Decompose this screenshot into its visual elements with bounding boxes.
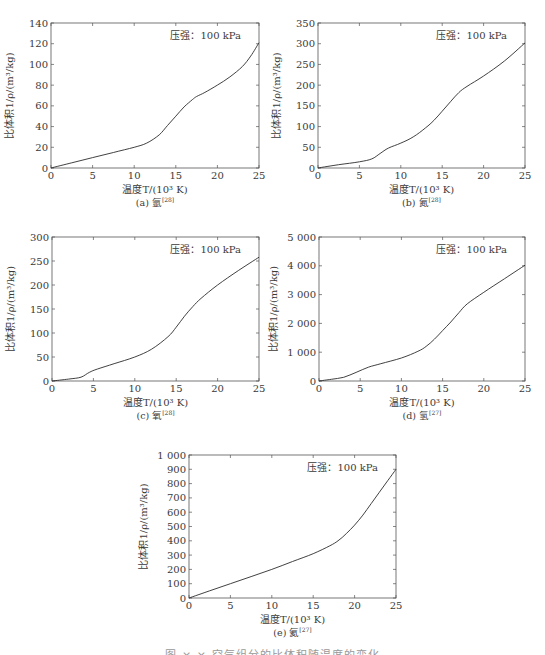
x-tick-label: 0 <box>49 383 55 394</box>
y-axis-label: 比体积1/ρ/(m³/kg) <box>268 266 279 352</box>
y-tick-label: 350 <box>296 18 315 29</box>
data-line <box>51 43 259 168</box>
y-tick-label: 20 <box>35 142 48 153</box>
chart-d: 051015202501 0002 0003 0004 0005 000压强：1… <box>267 227 545 431</box>
y-tick-label: 4 000 <box>287 260 316 271</box>
y-tick-label: 150 <box>296 100 315 111</box>
y-axis-label: 比体积1/ρ/(m³/kg) <box>138 483 149 569</box>
plot-frame <box>189 455 396 598</box>
y-tick-label: 100 <box>30 328 49 339</box>
y-tick-label: 150 <box>30 304 49 315</box>
y-tick-label: 1 000 <box>157 450 186 461</box>
x-tick-label: 5 <box>90 383 96 394</box>
y-tick-label: 300 <box>296 38 315 49</box>
plot-frame <box>318 23 525 168</box>
x-axis-label: 温度T/(10³ K) <box>389 183 454 195</box>
subfigure-caption: (d) 氢[27] <box>403 409 442 421</box>
y-tick-label: 250 <box>296 59 315 70</box>
plot-frame <box>319 237 525 381</box>
y-axis-label: 比体积1/ρ/(m³/kg) <box>4 52 15 138</box>
y-tick-label: 200 <box>167 564 186 575</box>
x-tick-label: 10 <box>395 383 408 394</box>
pressure-annotation: 压强：100 kPa <box>170 30 241 41</box>
y-tick-label: 120 <box>29 38 48 49</box>
chart-e: 051015202501002003004005006007008009001 … <box>137 445 424 648</box>
x-tick-label: 5 <box>227 600 233 611</box>
data-line <box>318 43 525 168</box>
x-tick-label: 15 <box>170 383 183 394</box>
x-tick-label: 0 <box>316 383 322 394</box>
y-axis-label: 比体积1/ρ/(m³/kg) <box>5 266 16 352</box>
chart-b: 0510152025050100150200250300350压强：100 kP… <box>266 13 545 218</box>
x-tick-label: 25 <box>253 170 266 181</box>
data-line <box>319 265 525 381</box>
plot-frame <box>52 237 259 381</box>
y-tick-label: 5 000 <box>287 232 316 243</box>
y-tick-label: 0 <box>310 376 316 387</box>
pressure-annotation: 压强：100 kPa <box>436 244 507 255</box>
y-tick-label: 600 <box>167 507 186 518</box>
y-tick-label: 200 <box>30 280 49 291</box>
chart-a: 0510152025020406080100120140压强：100 kPa比体… <box>0 13 287 218</box>
y-tick-label: 80 <box>35 80 48 91</box>
x-tick-label: 25 <box>519 383 532 394</box>
y-tick-label: 100 <box>167 578 186 589</box>
chart-c: 0510152025050100150200250300压强：100 kPa比体… <box>0 227 287 431</box>
pressure-annotation: 压强：100 kPa <box>436 30 507 41</box>
subfigure-caption: (c) 氧[28] <box>136 409 174 421</box>
y-tick-label: 200 <box>296 80 315 91</box>
x-tick-label: 10 <box>128 383 141 394</box>
x-tick-label: 5 <box>89 170 95 181</box>
x-tick-label: 20 <box>477 170 490 181</box>
x-axis-label: 温度T/(10³ K) <box>389 396 454 408</box>
x-tick-label: 10 <box>265 600 278 611</box>
data-line <box>189 469 396 598</box>
y-tick-label: 0 <box>42 163 48 174</box>
y-tick-label: 0 <box>309 163 315 174</box>
x-tick-label: 5 <box>357 383 363 394</box>
x-tick-label: 25 <box>390 600 403 611</box>
x-tick-label: 0 <box>186 600 192 611</box>
y-tick-label: 2 000 <box>287 318 316 329</box>
y-tick-label: 0 <box>180 593 186 604</box>
x-axis-label: 温度T/(10³ K) <box>123 396 188 408</box>
y-tick-label: 300 <box>30 232 49 243</box>
y-tick-label: 800 <box>167 478 186 489</box>
y-axis-label: 比体积1/ρ/(m³/kg) <box>271 52 282 138</box>
x-axis-label: 温度T/(10³ K) <box>122 183 187 195</box>
plot-frame <box>51 23 259 168</box>
x-tick-label: 10 <box>394 170 407 181</box>
x-tick-label: 25 <box>253 383 266 394</box>
x-tick-label: 20 <box>211 383 224 394</box>
y-tick-label: 40 <box>35 121 48 132</box>
x-tick-label: 25 <box>519 170 532 181</box>
figure-caption: 图 ×-× 空气组分的比体积随温度的变化 <box>0 646 545 655</box>
y-tick-label: 1 000 <box>287 347 316 358</box>
y-tick-label: 50 <box>302 142 315 153</box>
x-tick-label: 15 <box>169 170 182 181</box>
x-tick-label: 0 <box>48 170 54 181</box>
x-tick-label: 15 <box>436 170 449 181</box>
subfigure-caption: (b) 氮[28] <box>402 196 441 208</box>
x-tick-label: 10 <box>128 170 141 181</box>
y-tick-label: 700 <box>167 492 186 503</box>
y-tick-label: 900 <box>167 464 186 475</box>
data-line <box>52 257 259 381</box>
y-tick-label: 100 <box>296 121 315 132</box>
y-tick-label: 3 000 <box>287 289 316 300</box>
subfigure-caption: (e) 氦[27] <box>273 626 311 638</box>
x-tick-label: 5 <box>356 170 362 181</box>
y-tick-label: 300 <box>167 550 186 561</box>
pressure-annotation: 压强：100 kPa <box>170 244 241 255</box>
x-tick-label: 20 <box>348 600 361 611</box>
y-tick-label: 500 <box>167 521 186 532</box>
x-axis-label: 温度T/(10³ K) <box>260 613 325 625</box>
y-tick-label: 100 <box>29 59 48 70</box>
x-tick-label: 15 <box>307 600 320 611</box>
y-tick-label: 140 <box>29 18 48 29</box>
y-tick-label: 50 <box>36 352 49 363</box>
y-tick-label: 400 <box>167 535 186 546</box>
x-tick-label: 20 <box>211 170 224 181</box>
x-tick-label: 20 <box>477 383 490 394</box>
y-tick-label: 60 <box>35 100 48 111</box>
